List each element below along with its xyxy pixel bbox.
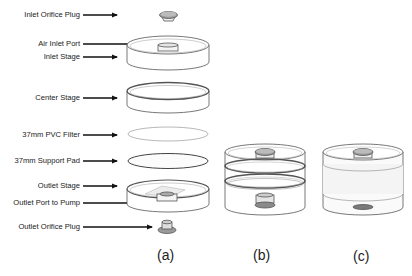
label-air-inlet-port: Air Inlet Port [38, 39, 80, 49]
exploded-view-a [127, 12, 209, 234]
label-pvc-filter: 37mm PVC Filter [22, 130, 80, 140]
caption-c: (c) [353, 248, 369, 264]
center-stage-part [127, 83, 209, 114]
caption-b: (b) [253, 247, 270, 263]
inlet-stage-part [127, 36, 209, 70]
cassette-diagram: Inlet Orifice Plug Air Inlet Port Inlet … [0, 0, 412, 276]
assembled-view-c [323, 144, 403, 215]
label-outlet-stage: Outlet Stage [38, 181, 80, 191]
inlet-orifice-plug-part [160, 12, 178, 22]
label-outlet-port: Outlet Port to Pump [13, 198, 80, 208]
label-outlet-orifice-plug: Outlet Orifice Plug [18, 222, 80, 232]
label-inlet-stage: Inlet Stage [44, 52, 80, 62]
outlet-stage-part [127, 180, 209, 212]
caption-a: (a) [157, 247, 174, 263]
label-support-pad: 37mm Support Pad [15, 156, 80, 166]
label-inlet-orifice-plug: Inlet Orifice Plug [24, 10, 80, 20]
outlet-orifice-plug-part [158, 220, 176, 233]
pvc-filter-part [128, 127, 208, 141]
support-pad-part [128, 154, 208, 169]
label-center-stage: Center Stage [35, 93, 80, 103]
assembled-view-b [225, 144, 305, 215]
